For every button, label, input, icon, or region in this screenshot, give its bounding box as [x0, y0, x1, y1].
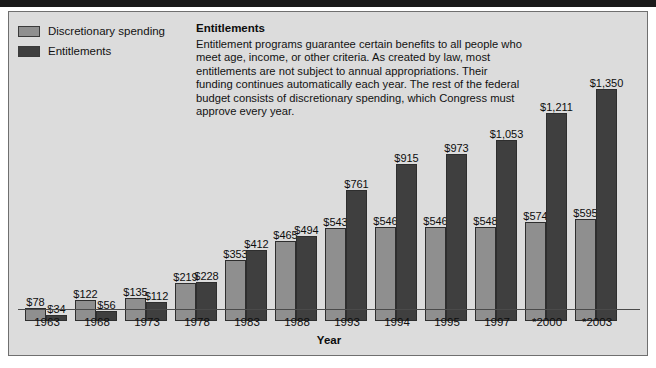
bar-value-label: $761 [344, 178, 368, 190]
bar-entitlements: $1,053 [496, 140, 517, 321]
plot-area: $78$34$122$56$135$112$219$228$353$412$46… [18, 23, 638, 355]
bar-entitlements: $915 [396, 164, 417, 321]
x-axis-tick-label: *2000 [525, 316, 569, 328]
bar-entitlements: $1,211 [546, 113, 567, 321]
bar-value-label: $574 [523, 210, 547, 222]
bar-value-label: $494 [294, 224, 318, 236]
bar-value-label: $112 [145, 290, 169, 302]
x-axis-tick-label: *2003 [575, 316, 619, 328]
bars-layer: $78$34$122$56$135$112$219$228$353$412$46… [18, 23, 640, 366]
bar-discretionary: $546 [425, 227, 446, 321]
bar-value-label: $546 [423, 215, 447, 227]
bar-value-label: $412 [244, 238, 268, 250]
bar-discretionary: $548 [475, 227, 496, 321]
x-axis-tick-label: 1988 [275, 316, 319, 328]
bar-entitlements: $973 [446, 154, 467, 321]
bar-discretionary: $546 [375, 227, 396, 321]
bar-value-label: $1,053 [490, 128, 524, 140]
bar-entitlements: $1,350 [596, 89, 617, 321]
bar-entitlements: $761 [346, 190, 367, 321]
bar-value-label: $915 [394, 152, 418, 164]
x-axis-tick-label: 1963 [25, 316, 69, 328]
x-axis-tick-label: 1995 [425, 316, 469, 328]
x-axis-title: Year [18, 334, 640, 346]
bar-value-label: $546 [373, 215, 397, 227]
x-axis-tick-label: 1978 [175, 316, 219, 328]
x-axis-tick-label: 1968 [75, 316, 119, 328]
bar-discretionary: $543 [325, 228, 346, 321]
bar-value-label: $973 [444, 142, 468, 154]
top-divider-rule [0, 0, 656, 7]
chart-figure-root: Discretionary spending Entitlements Enti… [0, 0, 656, 368]
x-axis-tick-label: 1994 [375, 316, 419, 328]
bar-value-label: $548 [473, 215, 497, 227]
bar-value-label: $1,350 [590, 77, 624, 89]
bar-entitlements: $412 [246, 250, 267, 321]
x-axis-line [18, 309, 640, 310]
bar-discretionary: $353 [225, 260, 246, 321]
bar-value-label: $543 [323, 216, 347, 228]
x-axis-tick-label: 1973 [125, 316, 169, 328]
chart-frame: Discretionary spending Entitlements Enti… [8, 11, 648, 356]
bar-value-label: $595 [573, 207, 597, 219]
x-axis-tick-label: 1993 [325, 316, 369, 328]
x-axis-tick-label: 1997 [475, 316, 519, 328]
x-axis-tick-label: 1983 [225, 316, 269, 328]
bar-value-label: $228 [194, 270, 218, 282]
bar-value-label: $1,211 [540, 101, 573, 113]
bar-value-label: $122 [73, 288, 97, 300]
bar-discretionary: $595 [575, 219, 596, 321]
bar-value-label: $78 [26, 296, 44, 308]
bar-discretionary: $574 [525, 222, 546, 321]
